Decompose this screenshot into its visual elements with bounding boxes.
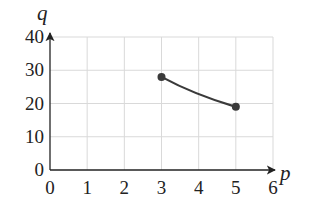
x-tick-label: 4: [194, 177, 204, 198]
y-axis-label: q: [37, 1, 48, 25]
tick-labels: 0123456010203040: [25, 26, 278, 198]
x-tick-label: 2: [120, 177, 130, 198]
data-point: [158, 73, 166, 81]
x-tick-label: 0: [45, 177, 55, 198]
x-tick-label: 5: [231, 177, 241, 198]
y-tick-label: 30: [25, 59, 44, 80]
x-tick-label: 6: [268, 177, 278, 198]
x-tick-label: 3: [157, 177, 167, 198]
y-tick-label: 10: [25, 126, 44, 147]
data-point: [232, 103, 240, 111]
y-tick-label: 40: [25, 26, 44, 47]
y-tick-label: 20: [25, 93, 44, 114]
x-axis-label: p: [278, 161, 291, 185]
x-tick-label: 1: [82, 177, 92, 198]
chart: 0123456010203040 p q: [0, 0, 313, 206]
y-tick-label: 0: [35, 159, 45, 180]
axes: [50, 33, 275, 170]
grid: [50, 37, 273, 170]
